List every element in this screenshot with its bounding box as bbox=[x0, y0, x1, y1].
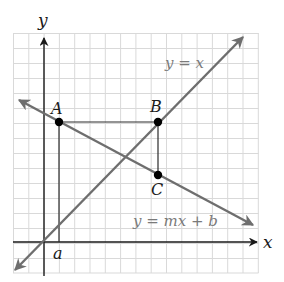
point-b-label: B bbox=[149, 97, 162, 116]
tick-label-a: a bbox=[53, 244, 63, 263]
linear-function-line-label: y = mx + b bbox=[132, 212, 218, 230]
point-b bbox=[154, 118, 162, 126]
y-axis-label: y bbox=[37, 10, 48, 30]
x-axis-label: x bbox=[263, 232, 273, 252]
grid bbox=[13, 33, 259, 273]
point-a-label: A bbox=[49, 99, 63, 118]
identity-line-label: y = x bbox=[164, 54, 205, 72]
diagram-canvas: y x A B C a y = x y = mx + b bbox=[0, 0, 284, 282]
point-c bbox=[154, 171, 162, 179]
coordinate-plane-diagram: y x A B C a y = x y = mx + b bbox=[0, 0, 284, 282]
point-c-label: C bbox=[151, 180, 163, 199]
point-a bbox=[55, 118, 63, 126]
